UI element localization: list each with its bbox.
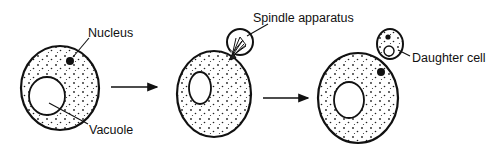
vacuole <box>189 72 211 104</box>
nucleus <box>377 68 385 76</box>
vacuole <box>334 82 364 118</box>
daughter-vacuole <box>384 46 394 56</box>
spindle-label: Spindle apparatus <box>253 11 354 25</box>
budding-diagram: Nucleus Vacuole Spindle apparatus D <box>0 0 498 146</box>
cell-stage-3: Daughter cell <box>318 29 486 143</box>
daughter-label: Daughter cell <box>412 51 486 65</box>
vacuole-label: Vacuole <box>89 123 133 137</box>
nucleus <box>66 57 74 65</box>
cell-stage-1: Nucleus Vacuole <box>21 26 133 137</box>
daughter-nucleus <box>385 34 390 39</box>
nucleus-label: Nucleus <box>88 26 133 40</box>
spindle-leader <box>247 24 268 36</box>
cell-membrane <box>177 51 251 137</box>
